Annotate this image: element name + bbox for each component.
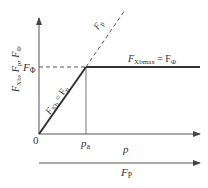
y-axis-label: FXb, Fp, FΦ <box>10 46 23 93</box>
rising-line-label: FXb = Fp <box>43 83 72 118</box>
fp-dashed-label: Fp <box>91 18 107 33</box>
f-phi-label: FΦ <box>22 61 36 75</box>
plateau-label: FXbmax = FΦ <box>127 53 176 66</box>
fp-axis-label: FP <box>120 166 133 180</box>
rising-line <box>39 67 86 134</box>
force-diagram: 0 pa p FP FΦ FXb, Fp, FΦ FXbmax = FΦ Fp … <box>0 0 208 188</box>
fp-dashed-line <box>86 10 125 67</box>
origin-label: 0 <box>33 134 39 146</box>
pa-label: pa <box>80 137 91 151</box>
p-axis-label: p <box>122 143 129 155</box>
